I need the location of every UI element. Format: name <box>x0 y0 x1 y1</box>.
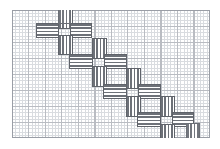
graph-paper-sheet <box>12 10 210 138</box>
fragment-top-stripes <box>58 10 71 24</box>
motif4-arm-bottom <box>160 124 175 138</box>
motif4-arm-left <box>137 112 161 127</box>
motif2-arm-right <box>104 54 127 69</box>
motif1-arm-right <box>70 23 92 38</box>
motif3-arm-left <box>103 84 127 99</box>
motif3-arm-right <box>138 84 161 99</box>
motif2-arm-left <box>69 54 93 69</box>
motif1-arm-bottom <box>58 35 73 55</box>
fragment-bottom-stripes <box>186 123 200 138</box>
pinwheel-motif-4 <box>146 98 190 138</box>
pattern-canvas <box>0 0 220 149</box>
motif1-arm-left <box>36 23 59 38</box>
